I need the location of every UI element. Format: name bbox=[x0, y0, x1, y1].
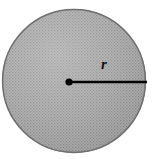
radius-label: r bbox=[101, 57, 107, 72]
figure-svg bbox=[0, 0, 162, 159]
circle-radius-figure: r bbox=[0, 0, 162, 159]
center-point-dot bbox=[65, 78, 72, 85]
